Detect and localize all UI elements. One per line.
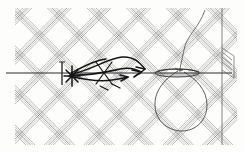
line-drawing <box>0 0 245 152</box>
drawing-canvas <box>0 0 245 152</box>
